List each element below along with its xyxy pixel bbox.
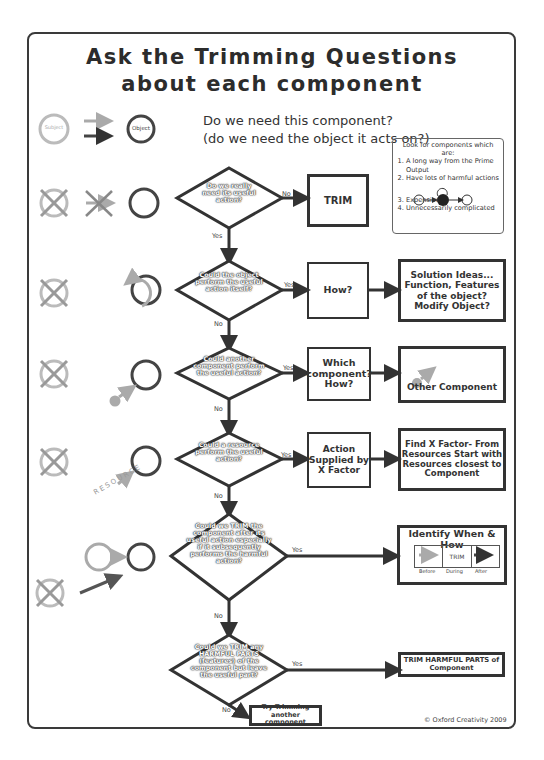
lookbox-item: Have lots of harmful actions <box>406 174 500 182</box>
object-circles <box>128 189 160 570</box>
timeline-during: During <box>446 568 463 574</box>
find-x-factor-box: Find X Factor- From Resources Start with… <box>398 428 506 491</box>
page-title: Ask the Trimming Questions about each co… <box>60 44 484 99</box>
q2-no-label: No <box>214 320 223 328</box>
q4-no-label: No <box>214 492 223 500</box>
which-component-box: Which component? How? <box>307 347 371 401</box>
timeline-trim: TRIM <box>443 546 471 567</box>
q3-no-label: No <box>214 405 223 413</box>
trim-box: TRIM <box>307 174 369 227</box>
lookbox-item: Expensive <box>406 196 500 204</box>
q6-no-label: No <box>222 706 231 714</box>
object-label: Object <box>128 125 154 131</box>
try-another-component-box: Try Trimming another component <box>249 705 322 726</box>
q5-no-label: No <box>214 612 223 620</box>
copyright: © Oxford Creativity 2009 <box>424 716 507 724</box>
q5-text: Could we TRIM the component after its us… <box>185 523 273 565</box>
lookbox-item: Unnecessarily complicated <box>406 204 500 212</box>
timeline-before: Before <box>419 568 435 574</box>
q4-yes-label: Yes <box>281 451 292 459</box>
q1-yes-label: Yes <box>212 232 223 240</box>
timeline-after: After <box>475 568 487 574</box>
timeline: TRIM <box>414 545 500 568</box>
q3-yes-label: Yes <box>283 364 294 372</box>
trim-harmful-parts-box: TRIM HARMFUL PARTS of Component <box>398 652 505 677</box>
title-line-2: about each component <box>60 71 484 98</box>
subject-label: Subject <box>40 125 68 131</box>
solution-ideas-box: Solution Ideas... Function, Features of … <box>398 259 506 322</box>
look-for-components-box: Look for components which are: A long wa… <box>392 138 504 234</box>
q4-text: Could a resource perform the useful acti… <box>195 442 263 463</box>
lookbox-item: A long way from the Prime Output <box>406 157 500 173</box>
q1-text: Do we really need its useful action? <box>197 183 261 204</box>
lookbox-heading: Look for components which are: <box>396 141 500 157</box>
crossed-subject-icons <box>37 190 67 606</box>
action-supplied-box: Action Supplied by X Factor <box>307 432 371 488</box>
q1-no-label: No <box>282 190 291 198</box>
q5-yes-label: Yes <box>292 546 303 554</box>
q6-yes-label: Yes <box>292 660 303 668</box>
q2-text: Could the object perform the useful acti… <box>195 272 263 293</box>
q3-text: Could another component perform the usef… <box>193 356 265 377</box>
q2-yes-label: Yes <box>284 281 295 289</box>
question-line-1: Do we need this component? <box>203 112 430 130</box>
title-line-1: Ask the Trimming Questions <box>60 44 484 71</box>
how-box: How? <box>307 262 369 319</box>
q6-text: Could we TRIM any HARMFUL PARTS (feature… <box>186 644 272 679</box>
other-component-box: Other Component <box>398 346 506 403</box>
